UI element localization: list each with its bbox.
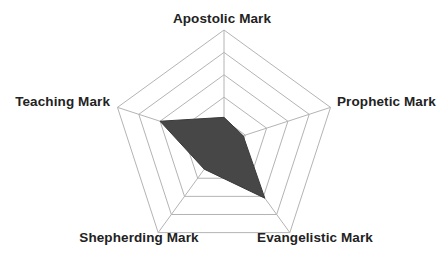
axis-label-prophetic: Prophetic Mark [337, 95, 436, 109]
axis-label-shepherding: Shepherding Mark [79, 231, 198, 245]
radar-chart-page: Apostolic Mark Prophetic Mark Teaching M… [0, 0, 441, 264]
data-polygon [160, 117, 265, 198]
axis-label-apostolic: Apostolic Mark [173, 12, 271, 26]
axis-label-evangelistic: Evangelistic Mark [257, 231, 373, 245]
data-polygon-group [160, 117, 265, 198]
radar-chart-plot [0, 0, 441, 264]
axis-label-teaching: Teaching Mark [15, 95, 110, 109]
